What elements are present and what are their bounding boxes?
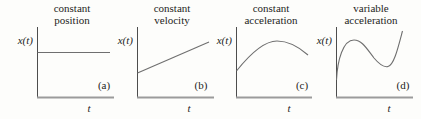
panel-a-tag: (a): [84, 79, 124, 91]
panel-a-title-line1: constant: [17, 2, 127, 14]
panel-c-ylabel: x(t): [200, 34, 232, 46]
panel-b-xlabel: t: [174, 102, 204, 114]
panel-b-title: constant velocity: [117, 2, 227, 26]
panel-b-ylabel: x(t): [101, 34, 133, 46]
panel-d-tag: (d): [383, 79, 421, 91]
panel-d-title-line1: variable: [316, 2, 421, 14]
panel-b-position-curve: [138, 42, 210, 73]
panel-b-tag: (b): [181, 79, 221, 91]
panel-d-title: variable acceleration: [316, 2, 421, 26]
panel-d-title-line2: acceleration: [316, 14, 421, 26]
panel-b-title-line1: constant: [117, 2, 227, 14]
panel-a-ylabel: x(t): [1, 34, 33, 46]
panel-c-position-curve: [237, 41, 309, 71]
panel-d-xlabel: t: [374, 102, 404, 114]
panel-c-title-line1: constant: [216, 2, 326, 14]
panel-a-title: constant position: [17, 2, 127, 26]
panel-c-tag: (c): [282, 79, 322, 91]
panel-c-title: constant acceleration: [216, 2, 326, 26]
panel-c-xlabel: t: [274, 102, 304, 114]
panel-d-position-curve: [337, 31, 403, 80]
panel-a-title-line2: position: [17, 14, 127, 26]
panel-c-title-line2: acceleration: [216, 14, 326, 26]
panel-a-xlabel: t: [74, 102, 104, 114]
panel-d-ylabel: x(t): [300, 34, 332, 46]
panel-b-title-line2: velocity: [117, 14, 227, 26]
motion-graphs-figure: constant position x(t) (a) t constant ve…: [0, 0, 421, 119]
